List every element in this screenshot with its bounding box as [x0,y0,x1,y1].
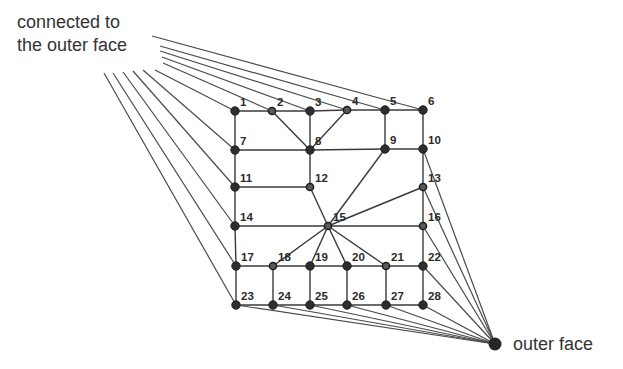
outer-edge-top-3 [162,57,310,111]
node-6 [419,106,427,114]
node-label-6: 6 [428,95,434,107]
node-label-25: 25 [315,290,328,302]
outer-face-node [489,338,502,351]
node-10 [419,145,427,153]
edge-2-8 [272,111,310,150]
node-3 [306,107,314,115]
node-26 [343,301,351,309]
node-label-26: 26 [352,290,365,302]
outer-face-connections-top [104,36,423,305]
node-9 [381,145,389,153]
node-7 [231,146,239,154]
edge-14-17 [235,226,236,266]
caption-top-line2: the outer face [17,35,127,55]
node-label-23: 23 [241,290,254,302]
outer-edge-top-2 [163,63,272,111]
node-label-28: 28 [428,290,441,302]
node-label-2: 2 [277,96,283,108]
node-label-21: 21 [391,251,404,263]
node-27 [382,301,390,309]
node-label-1: 1 [240,96,247,108]
node-2 [268,107,275,114]
node-label-20: 20 [352,251,365,263]
node-label-12: 12 [315,172,328,184]
node-label-17: 17 [241,251,254,263]
node-label-7: 7 [240,135,246,147]
outer-edge-top-6 [152,36,423,110]
node-22 [419,262,427,270]
edge-12-15 [310,187,328,226]
node-label-27: 27 [391,290,404,302]
outer-edge-top-23 [104,73,236,305]
node-5 [381,106,389,114]
node-label-22: 22 [428,251,441,263]
node-25 [306,301,314,309]
node-label-3: 3 [315,96,321,108]
node-28 [419,301,427,309]
node-label-8: 8 [315,135,322,147]
node-label-5: 5 [390,95,397,107]
node-12 [306,183,313,190]
outer-edge-bottom-24 [273,305,495,344]
node-label-15: 15 [333,211,346,223]
node-label-13: 13 [428,172,441,184]
node-label-16: 16 [428,211,441,223]
node-label-14: 14 [240,211,253,223]
node-label-9: 9 [390,134,396,146]
edge-8-9 [310,149,385,150]
node-20 [343,262,351,270]
node-23 [232,301,240,309]
outer-edge-top-14 [123,72,235,226]
node-11 [231,183,239,191]
outer-face-connections-bottom [236,149,495,344]
caption-top-line1: connected to [17,12,120,32]
node-1 [231,107,239,115]
node-labels: 1234567891011121314151617181920212223242… [240,95,441,302]
node-label-24: 24 [278,290,291,302]
node-4 [343,106,350,113]
graph-nodes [231,106,427,309]
edge-3-4 [310,110,347,111]
node-21 [382,262,389,269]
node-label-18: 18 [278,251,291,263]
node-8 [306,146,314,154]
outer-edge-bottom-16 [423,226,495,344]
node-24 [269,301,277,309]
outer-edge-top-7 [143,70,235,150]
node-19 [306,262,314,270]
node-18 [269,262,276,269]
node-17 [232,262,240,270]
node-label-4: 4 [352,95,359,107]
node-label-19: 19 [315,251,328,263]
node-label-11: 11 [240,172,253,184]
caption-outer-face: outer face [513,334,593,354]
outer-edge-bottom-23 [236,305,495,344]
node-13 [419,183,426,190]
node-label-10: 10 [428,134,441,146]
planar-graph-diagram: 1234567891011121314151617181920212223242… [0,0,623,369]
node-15 [324,222,331,229]
node-14 [231,222,239,230]
outer-edge-bottom-22 [423,266,495,344]
node-16 [419,222,426,229]
